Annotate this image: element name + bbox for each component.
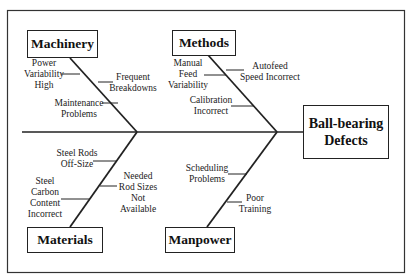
category-box-manpower: Manpower (165, 227, 235, 253)
cause-frequent-breakdowns: Frequent Breakdowns (108, 72, 158, 94)
effect-line-1: Ball-bearing (309, 115, 384, 132)
cause-line: Problems (183, 174, 231, 185)
cause-line: Available (116, 204, 160, 215)
cause-power-variability-high: Power Variability High (24, 58, 64, 91)
cause-line: Problems (52, 109, 106, 120)
cause-line: Manual (168, 58, 208, 69)
cause-line: Rod Sizes (116, 182, 160, 193)
cause-line: Variability (24, 69, 64, 80)
cause-steel-rods-off-size: Steel Rods Off-Size (54, 148, 100, 170)
cause-line: Breakdowns (108, 83, 158, 94)
cause-line: Frequent (108, 72, 158, 83)
cause-line: Incorrect (24, 209, 66, 220)
category-label-machinery: Machinery (31, 36, 94, 52)
cause-line: Poor (237, 193, 273, 204)
category-label-materials: Materials (37, 232, 92, 248)
cause-line: Incorrect (188, 106, 234, 117)
effect-line-2: Defects (324, 132, 368, 149)
cause-line: Maintenance (52, 98, 106, 109)
cause-line: Steel Rods (54, 148, 100, 159)
bone-machinery (70, 58, 137, 132)
cause-line: Content (24, 198, 66, 209)
cause-line: Carbon (24, 187, 66, 198)
category-box-machinery: Machinery (27, 30, 98, 58)
cause-steel-carbon-content-incorrect: Steel Carbon Content Incorrect (24, 176, 66, 220)
cause-needed-rod-sizes-not-available: Needed Rod Sizes Not Available (116, 171, 160, 215)
cause-poor-training: Poor Training (237, 193, 273, 215)
category-label-methods: Methods (179, 35, 229, 51)
category-box-materials: Materials (27, 227, 103, 253)
cause-line: Variability (168, 80, 208, 91)
cause-maintenance-problems: Maintenance Problems (52, 98, 106, 120)
cause-line: Speed Incorrect (240, 72, 300, 83)
cause-line: Off-Size (54, 159, 100, 170)
cause-line: High (24, 80, 64, 91)
cause-line: Steel (24, 176, 66, 187)
cause-line: Not (116, 193, 160, 204)
cause-manual-feed-variability: Manual Feed Variability (168, 58, 208, 91)
cause-line: Scheduling (183, 163, 231, 174)
cause-scheduling-problems: Scheduling Problems (183, 163, 231, 185)
cause-line: Autofeed (240, 61, 300, 72)
effect-box: Ball-bearing Defects (303, 105, 389, 159)
cause-autofeed-speed-incorrect: Autofeed Speed Incorrect (240, 61, 300, 83)
cause-calibration-incorrect: Calibration Incorrect (188, 95, 234, 117)
cause-line: Training (237, 204, 273, 215)
cause-line: Feed (168, 69, 208, 80)
cause-line: Calibration (188, 95, 234, 106)
category-label-manpower: Manpower (169, 232, 232, 248)
cause-line: Power (24, 58, 64, 69)
cause-line: Needed (116, 171, 160, 182)
category-box-methods: Methods (172, 30, 236, 56)
